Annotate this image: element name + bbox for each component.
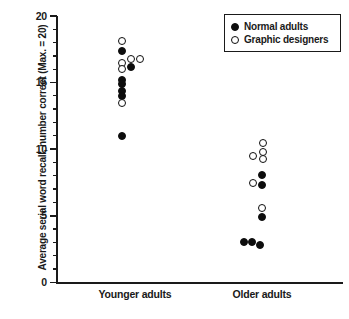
data-point [258,204,266,212]
y-axis-minor-tick [53,122,57,123]
data-point [127,63,135,71]
y-axis-major-tick [50,15,57,17]
data-point [118,99,126,107]
legend-item-label: Graphic designers [244,34,328,45]
y-axis-minor-tick [53,242,57,243]
data-point [136,55,144,63]
legend-item-label: Normal adults [244,21,308,32]
y-axis-minor-tick [53,135,57,136]
data-point [258,181,266,189]
y-axis-minor-tick [53,228,57,229]
legend-item: Normal adults [231,20,335,33]
legend-item: Graphic designers [231,33,335,46]
y-axis-major-tick [50,148,57,150]
data-point [118,65,126,73]
y-axis-minor-tick [53,202,57,203]
data-point [258,213,266,221]
y-axis-major-tick [50,82,57,84]
legend: Normal adultsGraphic designers [224,14,341,52]
data-point [127,55,135,63]
y-axis-minor-tick [53,95,57,96]
open-circle-icon [231,36,239,44]
x-axis-category-label: Older adults [233,288,292,300]
data-point [258,171,266,179]
data-point [118,47,126,55]
data-point [249,152,257,160]
data-point [118,132,126,140]
data-point [240,238,248,246]
y-axis-minor-tick [53,255,57,256]
y-axis-minor-tick [53,268,57,269]
y-axis-minor-tick [53,188,57,189]
data-point [259,155,267,163]
filled-circle-icon [231,23,239,31]
y-axis-minor-tick [53,175,57,176]
y-axis-minor-tick [53,162,57,163]
y-axis-title: Average serial word recall, number corre… [37,13,48,283]
plot-area [57,16,342,283]
y-axis-major-tick [50,282,57,284]
data-point [259,139,267,147]
y-axis-minor-tick [53,29,57,30]
data-point [248,238,256,246]
y-axis-minor-tick [53,42,57,43]
y-axis-minor-tick [53,108,57,109]
data-point [249,179,257,187]
x-axis-category-label: Younger adults [99,288,172,300]
data-point [118,37,126,45]
data-point [256,241,264,249]
scatter-plot-figure: 20151050 Average serial word recall, num… [0,0,349,319]
y-axis-minor-tick [53,69,57,70]
y-axis-major-tick [50,215,57,217]
y-axis-minor-tick [53,55,57,56]
